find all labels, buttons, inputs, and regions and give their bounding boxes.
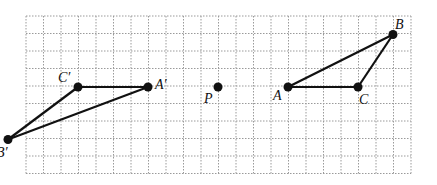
point-C-prime [74,83,83,92]
point-C [354,83,363,92]
grid [26,16,411,174]
reflection-diagram: ABCA′B′C′P [0,0,437,185]
label-B: B [395,17,404,32]
label-A-prime: A′ [154,77,168,92]
label-A: A [272,88,282,103]
label-C: C [359,92,369,107]
point-B-prime [4,135,13,144]
label-C-prime: C′ [58,70,71,85]
label-B-prime: B′ [0,145,9,160]
point-P [214,83,223,92]
point-A [284,83,293,92]
point-A-prime [144,83,153,92]
label-P: P [203,91,213,106]
